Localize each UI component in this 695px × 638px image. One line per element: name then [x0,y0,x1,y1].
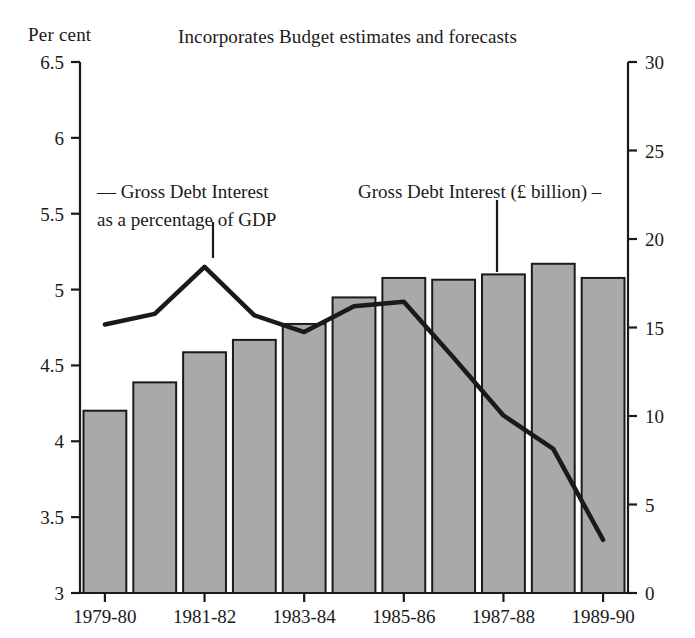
right-tick-label: 25 [645,141,664,162]
right-tick-label: 30 [645,52,664,73]
plot-area: 33.544.555.566.50510152025301979-801981-… [0,0,695,638]
right-tick-label: 5 [645,495,655,516]
annotation-line: as a percentage of GDP [97,206,276,234]
left-tick-label: 4.5 [40,355,64,376]
bar-1985-86 [382,278,425,593]
annotation-line: Gross Debt Interest (£ billion) – [358,178,601,206]
left-tick-label: 6.5 [40,52,64,73]
x-tick-label: 1989-90 [571,606,634,627]
x-tick-label: 1983-84 [273,606,337,627]
right-tick-label: 15 [645,318,664,339]
left-tick-label: 5 [55,280,65,301]
bar-1986-87 [432,280,475,593]
bar-1988-89 [532,264,575,593]
bar-1979-80 [83,411,126,593]
right-tick-label: 20 [645,229,664,250]
left-tick-label: 5.5 [40,204,64,225]
annotation-gdp-percentage: — Gross Debt Interestas a percentage of … [97,178,276,233]
x-tick-label: 1981-82 [173,606,236,627]
bars-group [83,264,624,593]
bar-1981-82 [183,352,226,593]
left-tick-label: 3 [55,583,65,604]
bar-1983-84 [283,324,326,593]
left-tick-label: 4 [55,431,65,452]
bar-1987-88 [482,274,525,593]
annotation-line: — Gross Debt Interest [97,178,276,206]
bar-1984-85 [333,297,376,593]
annotation-debt-interest: Gross Debt Interest (£ billion) – [358,178,601,206]
left-tick-label: 3.5 [40,507,64,528]
right-tick-label: 0 [645,583,655,604]
bar-1982-83 [233,340,276,593]
x-tick-label: 1987-88 [472,606,535,627]
left-tick-label: 6 [55,128,65,149]
right-tick-label: 10 [645,406,664,427]
bar-1989-90 [582,278,625,593]
x-tick-label: 1979-80 [73,606,136,627]
x-tick-label: 1985-86 [372,606,435,627]
chart-container: Per cent Incorporates Budget estimates a… [0,0,695,638]
bar-1980-81 [133,382,176,593]
